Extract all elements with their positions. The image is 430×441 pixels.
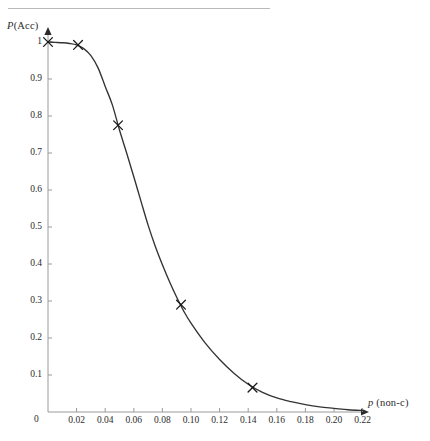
data-point-markers-group <box>44 38 257 392</box>
axes-group <box>44 27 369 416</box>
plot-canvas <box>0 0 430 441</box>
data-point-marker <box>114 121 123 130</box>
chart-figure: P(Acc) p (non-c) 0 0.10.20.30.40.50.60.7… <box>0 0 430 441</box>
data-point-marker <box>177 300 186 309</box>
y-axis-arrowhead <box>44 27 51 35</box>
data-curve-group <box>48 42 363 411</box>
data-point-marker <box>248 383 257 392</box>
data-curve <box>48 42 363 411</box>
